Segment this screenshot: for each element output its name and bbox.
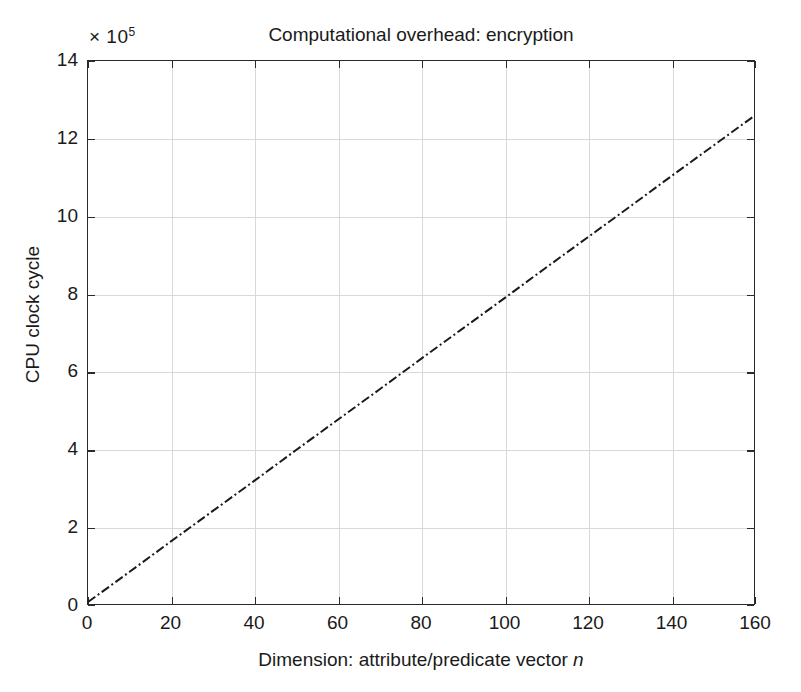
y-tick-label: 8	[67, 283, 78, 305]
x-tick-label: 40	[243, 612, 264, 634]
plot-area	[87, 60, 755, 605]
x-tick-label: 140	[656, 612, 688, 634]
x-axis-label: Dimension: attribute/predicate vector n	[87, 648, 755, 671]
x-tick-label: 160	[739, 612, 771, 634]
y-axis-label: CPU clock cycle	[21, 165, 44, 465]
x-tick-label: 120	[572, 612, 604, 634]
series-line-encryption	[88, 116, 754, 602]
axis-tick	[747, 605, 754, 606]
x-tick-label: 80	[410, 612, 431, 634]
x-tick-label: 0	[82, 612, 93, 634]
x-axis-label-text: Dimension: attribute/predicate vector	[258, 649, 573, 670]
y-tick-label: 2	[67, 516, 78, 538]
y-tick-label: 10	[57, 205, 78, 227]
y-tick-label: 14	[57, 49, 78, 71]
x-tick-label: 60	[327, 612, 348, 634]
y-tick-label: 12	[57, 127, 78, 149]
x-axis-label-variable: n	[573, 649, 584, 670]
y-tick-label: 4	[67, 438, 78, 460]
x-tick-label: 20	[160, 612, 181, 634]
data-series-layer	[88, 61, 754, 604]
axis-tick	[88, 605, 95, 606]
x-tick-label: 100	[489, 612, 521, 634]
axis-tick	[755, 597, 756, 604]
chart-title: Computational overhead: encryption	[87, 24, 755, 46]
y-tick-label: 0	[67, 594, 78, 616]
chart-figure: × 105 Computational overhead: encryption…	[0, 0, 801, 692]
y-tick-label: 6	[67, 360, 78, 382]
axis-tick	[755, 61, 756, 68]
